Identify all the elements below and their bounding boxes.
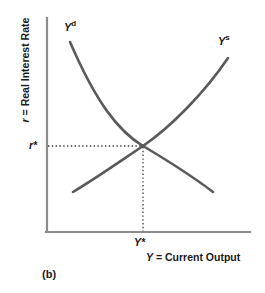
y-axis-title-var: r — [19, 118, 31, 122]
curve-label-yd: Yd — [64, 22, 76, 33]
x-axis-tick-label-y-star: Y* — [134, 237, 145, 248]
curve-label-yd-superscript: d — [71, 19, 76, 28]
equilibrium-point — [141, 144, 145, 148]
output-supply-curve — [73, 58, 228, 192]
curve-label-ys: Ys — [218, 36, 230, 47]
x-axis-title-rest: = Current Output — [153, 251, 240, 263]
y-axis-title-rest: = Real Interest Rate — [19, 18, 31, 119]
y-axis-title-wrapper: r = Real Interest Rate — [15, 0, 31, 145]
figure-panel-b: Yd Ys r* Y* r = Real Interest Rate Y = C… — [0, 0, 265, 293]
curve-label-ys-superscript: s — [225, 33, 229, 42]
output-demand-curve — [70, 42, 213, 192]
x-axis-title-var: Y — [146, 251, 153, 263]
y-axis-title: r = Real Interest Rate — [19, 18, 31, 123]
panel-caption: (b) — [42, 269, 56, 280]
x-axis-title: Y = Current Output — [146, 252, 240, 263]
